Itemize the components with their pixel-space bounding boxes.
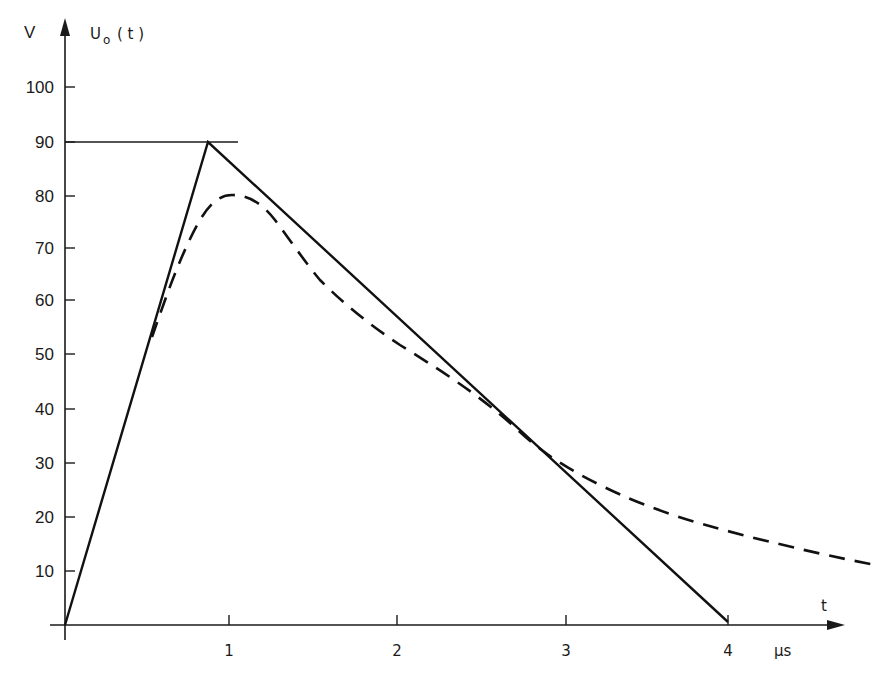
x-tick-labels: 1 2 3 4 — [224, 642, 733, 660]
y-axis-argument: ( t ) — [117, 25, 144, 43]
x-tick-label: 1 — [224, 642, 234, 660]
x-tick-label: 3 — [561, 642, 571, 660]
y-tick-label: 80 — [35, 187, 54, 206]
series-triangular-approximation — [65, 142, 728, 625]
x-ticks — [229, 615, 728, 625]
y-tick-label: 20 — [35, 508, 54, 527]
x-tick-label: 4 — [723, 642, 733, 660]
y-axis-subscript: o — [103, 33, 110, 47]
y-axis-arrow-icon — [60, 18, 70, 36]
y-axis-unit-label: V — [24, 23, 36, 42]
y-tick-label: 70 — [35, 239, 54, 258]
y-tick-label: 50 — [35, 345, 54, 364]
y-axis-series-label: U o ( t ) — [90, 25, 144, 47]
y-tick-labels: 10 20 30 40 50 60 70 80 90 100 — [26, 78, 54, 581]
series-actual-waveform — [152, 195, 875, 565]
x-axis-unit: µs — [774, 642, 792, 660]
x-axis-name: t — [821, 597, 827, 615]
y-tick-label: 100 — [26, 78, 54, 97]
y-axis-name: U — [90, 25, 101, 43]
y-ticks — [65, 87, 75, 571]
y-tick-label: 30 — [35, 454, 54, 473]
y-tick-label: 60 — [35, 291, 54, 310]
chart-canvas: 10 20 30 40 50 60 70 80 90 100 1 2 3 4 V… — [0, 0, 890, 685]
axes — [50, 18, 845, 640]
x-axis-arrow-icon — [827, 620, 845, 630]
y-tick-label: 90 — [35, 133, 54, 152]
y-tick-label: 10 — [35, 562, 54, 581]
x-tick-label: 2 — [392, 642, 402, 660]
y-tick-label: 40 — [35, 400, 54, 419]
